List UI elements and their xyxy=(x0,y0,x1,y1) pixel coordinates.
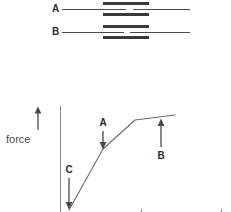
sarcomere-diagram-block: A B xyxy=(0,0,231,48)
sarcomere-row-b-label: B xyxy=(52,27,59,37)
sarcomere-row-a: A xyxy=(0,1,231,23)
annotation-label-b: B xyxy=(157,151,164,161)
myosin-thick-filament-a-bottom xyxy=(103,13,149,16)
force-curve xyxy=(69,115,175,210)
annotation-b-arrow-icon xyxy=(158,119,165,148)
z-line-gap-a xyxy=(126,8,133,11)
myosin-thick-filament-b-bottom xyxy=(103,36,149,39)
z-line-gap-b xyxy=(124,31,130,34)
sarcomere-row-a-label: A xyxy=(52,4,59,14)
sarcomere-force-figure: A B 1.0 2.0 xyxy=(0,0,231,212)
annotation-label-c: C xyxy=(65,165,72,175)
annotation-label-a: A xyxy=(99,118,106,128)
force-length-chart: 1.0 2.0 3.0 length of sarcomere/µm force xyxy=(0,48,231,212)
myosin-thick-filament-b-top xyxy=(103,25,149,28)
y-axis-arrow-icon xyxy=(35,107,42,131)
figure-root: A B 1.0 2.0 xyxy=(0,0,231,212)
sarcomere-row-b: B xyxy=(0,23,231,45)
myosin-thick-filament-a-top xyxy=(103,2,149,5)
chart-svg xyxy=(0,48,231,212)
